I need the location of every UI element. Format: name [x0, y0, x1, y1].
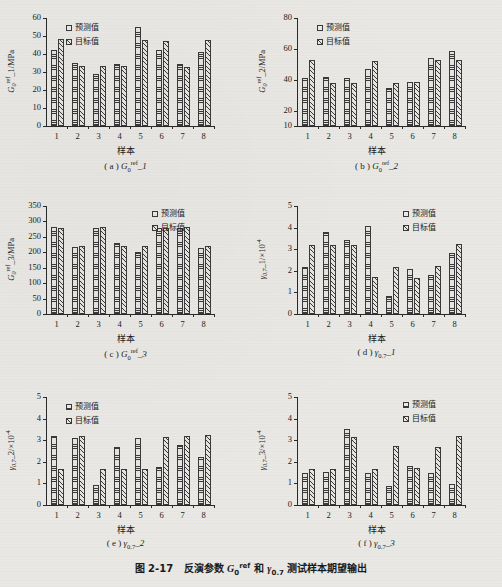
x-tick-b-1 [318, 126, 319, 129]
legend-swatch-target [403, 416, 409, 422]
y-tick-d-4 [294, 228, 297, 229]
x-tick-f-7 [444, 505, 445, 508]
bar-predicted-c-8 [198, 248, 204, 314]
bar-predicted-a-1 [51, 50, 57, 126]
y-axis-label-e: γ0.7_2/×10-4 [5, 419, 18, 481]
bar-predicted-a-8 [198, 52, 204, 126]
bar-target-b-1 [309, 60, 315, 126]
x-tick-a-5 [151, 126, 152, 129]
y-tick-a-20 [43, 90, 46, 91]
y-tick-label-b-20: 20 [259, 105, 292, 115]
legend-label-target: 目标值 [326, 36, 350, 47]
x-tick-e-2 [88, 505, 89, 508]
legend-item-target: 目标值 [152, 222, 185, 233]
bar-target-b-5 [393, 83, 399, 126]
subplot-a: 0102030405060G0ref_1/MPa12345678预测值目标值样本… [0, 4, 251, 196]
bar-predicted-d-6 [407, 269, 413, 314]
legend-item-predicted: 预测值 [152, 208, 185, 219]
bar-predicted-e-7 [177, 445, 183, 505]
legend-item-predicted: 预测值 [66, 22, 99, 33]
x-tick-label-d-8: 8 [443, 319, 467, 329]
legend-c: 预测值目标值 [152, 208, 185, 236]
bar-predicted-c-1 [51, 227, 57, 314]
bar-target-d-1 [309, 245, 315, 314]
y-tick-label-d-0: 0 [259, 308, 292, 318]
subplot-caption-d: ( d ) γ0.7_1 [251, 347, 502, 359]
y-tick-label-c-350: 350 [8, 200, 41, 210]
y-tick-b-40 [294, 80, 297, 81]
legend-swatch-target [403, 225, 409, 231]
y-tick-label-c-300: 300 [8, 215, 41, 225]
bar-target-e-5 [142, 469, 148, 505]
bar-target-f-6 [414, 468, 420, 505]
y-tick-label-a-0: 0 [8, 120, 41, 130]
bar-target-d-4 [372, 277, 378, 314]
y-tick-b-60 [294, 49, 297, 50]
bar-predicted-c-4 [114, 243, 120, 314]
bar-target-b-3 [351, 83, 357, 126]
y-tick-a-50 [43, 36, 46, 37]
subplot-f: 012345γ0.7_3/×10-412345678预测值目标值样本( f ) … [251, 383, 502, 575]
bar-target-a-5 [142, 40, 148, 126]
bar-predicted-b-5 [386, 88, 392, 126]
x-tick-b-7 [444, 126, 445, 129]
legend-swatch-predicted [403, 402, 409, 408]
y-tick-c-100 [43, 283, 46, 284]
bar-target-e-8 [205, 435, 211, 505]
legend-swatch-predicted [317, 25, 323, 31]
legend-label-predicted: 预测值 [326, 22, 350, 33]
bar-predicted-a-4 [114, 64, 120, 126]
legend-label-target: 目标值 [75, 36, 99, 47]
y-tick-f-4 [294, 419, 297, 420]
legend-item-predicted: 预测值 [403, 399, 436, 410]
y-tick-b-80 [294, 18, 297, 19]
y-tick-e-0 [43, 505, 46, 506]
x-axis-label-b: 样本 [251, 144, 502, 157]
y-tick-f-2 [294, 462, 297, 463]
bars-area-f [298, 397, 466, 505]
bar-target-e-3 [100, 469, 106, 505]
bar-target-c-7 [184, 227, 190, 314]
bar-target-a-6 [163, 41, 169, 126]
bar-predicted-b-7 [428, 58, 434, 126]
legend-e: 预测值目标值 [66, 401, 99, 429]
bar-target-e-2 [79, 436, 85, 505]
x-tick-b-8 [465, 126, 466, 129]
bar-predicted-e-1 [51, 436, 57, 505]
x-tick-e-3 [109, 505, 110, 508]
bar-target-d-3 [351, 245, 357, 314]
bars-area-d [298, 206, 466, 314]
x-tick-label-e-8: 8 [192, 510, 216, 520]
x-tick-d-1 [318, 314, 319, 317]
y-tick-b-10 [294, 126, 297, 127]
x-axis-label-c: 样本 [0, 332, 251, 345]
y-axis-label-c: G0ref_3/MPa [5, 228, 18, 290]
legend-swatch-target [152, 225, 158, 231]
bar-predicted-e-8 [198, 457, 204, 505]
x-tick-a-1 [67, 126, 68, 129]
y-axis-label-d: γ0.7_1/×10-4 [256, 228, 269, 290]
bar-predicted-f-8 [449, 484, 455, 505]
bar-target-c-1 [58, 228, 64, 314]
x-tick-b-5 [402, 126, 403, 129]
y-tick-c-250 [43, 237, 46, 238]
x-tick-d-2 [339, 314, 340, 317]
bar-target-d-8 [456, 244, 462, 314]
bar-predicted-b-6 [407, 82, 413, 126]
y-tick-label-b-10: 10 [259, 120, 292, 130]
subplot-c: 050100150200250300350G0ref_3/MPa12345678… [0, 192, 251, 384]
bar-target-e-7 [184, 436, 190, 505]
y-tick-d-3 [294, 249, 297, 250]
bar-predicted-f-5 [386, 486, 392, 505]
x-tick-label-f-8: 8 [443, 510, 467, 520]
bar-target-a-2 [79, 66, 85, 126]
y-tick-e-5 [43, 397, 46, 398]
x-tick-a-8 [214, 126, 215, 129]
x-tick-c-7 [193, 314, 194, 317]
x-tick-label-b-8: 8 [443, 131, 467, 141]
x-tick-f-3 [360, 505, 361, 508]
bar-predicted-d-2 [323, 232, 329, 314]
bar-predicted-d-4 [365, 226, 371, 314]
bar-target-d-2 [330, 245, 336, 314]
bar-predicted-f-6 [407, 466, 413, 505]
